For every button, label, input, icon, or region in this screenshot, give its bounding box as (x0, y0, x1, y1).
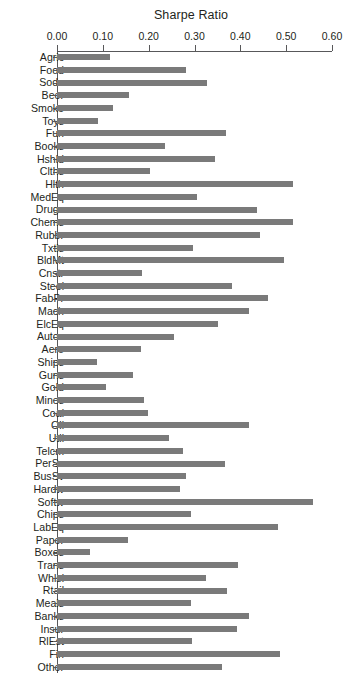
bar-row: Txtls (0, 242, 352, 255)
bar-row: Ships (0, 356, 352, 369)
bar (57, 664, 222, 670)
bar (57, 181, 293, 187)
bar (57, 168, 150, 174)
bar (57, 651, 280, 657)
bar-row: BusSv (0, 470, 352, 483)
bar-row: Hardw (0, 483, 352, 496)
bar (57, 473, 186, 479)
bar (57, 67, 186, 73)
bar (57, 257, 284, 263)
bar-row: Other (0, 661, 352, 674)
bar (57, 422, 249, 428)
bar-row: PerSv (0, 457, 352, 470)
bar-row: Insur (0, 623, 352, 636)
bar-row: Mach (0, 305, 352, 318)
bar-row: Agric (0, 51, 352, 64)
bar (57, 346, 141, 352)
bar-row: Cnstr (0, 267, 352, 280)
bar-row: Gold (0, 381, 352, 394)
bar (57, 600, 191, 606)
bar (57, 156, 215, 162)
chart-title: Sharpe Ratio (0, 8, 352, 22)
x-axis-tick-label: 0.30 (184, 30, 204, 42)
bar (57, 219, 293, 225)
bar-row: LabEq (0, 521, 352, 534)
bar (57, 549, 90, 555)
bar-row: Oil (0, 419, 352, 432)
bar (57, 384, 106, 390)
bar (57, 575, 206, 581)
chart-title-text: Sharpe Ratio (154, 8, 228, 22)
bar (57, 410, 148, 416)
bar (57, 524, 278, 530)
bar-row: Guns (0, 369, 352, 382)
bar-row: ElcEq (0, 318, 352, 331)
bar (57, 334, 174, 340)
bar (57, 499, 313, 505)
bar-row: Smoke (0, 102, 352, 115)
x-axis-tick-label: 0.60 (322, 30, 342, 42)
bar (57, 486, 180, 492)
bar-row: Trans (0, 559, 352, 572)
bar (57, 562, 238, 568)
bar (57, 245, 193, 251)
bar-row: Clths (0, 165, 352, 178)
bar (57, 308, 249, 314)
bar-row: BldMt (0, 254, 352, 267)
bar (57, 194, 197, 200)
bar (57, 461, 225, 467)
bar (57, 143, 165, 149)
bar (57, 283, 232, 289)
bar (57, 118, 98, 124)
bar-row: Food (0, 64, 352, 77)
bar (57, 130, 226, 136)
bar (57, 295, 268, 301)
bar-row: Fin (0, 648, 352, 661)
bar-row: Chems (0, 216, 352, 229)
bar-row: Toys (0, 115, 352, 128)
bar-row: Util (0, 432, 352, 445)
bar (57, 372, 133, 378)
bar (57, 321, 218, 327)
x-axis-tick-label: 0.20 (138, 30, 158, 42)
bar-row: Banks (0, 610, 352, 623)
x-axis-tick-label: 0.50 (276, 30, 296, 42)
bar (57, 638, 192, 644)
bar (57, 80, 207, 86)
bar (57, 435, 169, 441)
sharpe-ratio-bar-chart: Sharpe Ratio 0.000.100.200.300.400.500.6… (0, 0, 352, 677)
bar-row: Rubbr (0, 229, 352, 242)
bar (57, 270, 142, 276)
bar (57, 92, 129, 98)
bar (57, 397, 144, 403)
bar-row: Hshld (0, 153, 352, 166)
bar-row: Whlsl (0, 572, 352, 585)
bar-row: Meals (0, 597, 352, 610)
bar (57, 207, 257, 213)
bar (57, 588, 227, 594)
bar-row: FabPr (0, 292, 352, 305)
x-axis-tick-label: 0.40 (230, 30, 250, 42)
bar-row: Coal (0, 407, 352, 420)
bar-row: Mines (0, 394, 352, 407)
bar (57, 626, 237, 632)
plot-area: AgricFoodSodaBeerSmokeToysFunBooksHshldC… (0, 51, 352, 671)
bar-row: Steel (0, 280, 352, 293)
bar-row: Paper (0, 534, 352, 547)
bar-row: Boxes (0, 546, 352, 559)
bar (57, 232, 260, 238)
bar-row: Hlth (0, 178, 352, 191)
bar-row: RlEst (0, 635, 352, 648)
bar (57, 448, 183, 454)
bar (57, 54, 110, 60)
x-axis-tick-label: 0.10 (93, 30, 113, 42)
bar-row: Autos (0, 330, 352, 343)
bar (57, 359, 97, 365)
bar (57, 511, 191, 517)
bar-row: Drugs (0, 203, 352, 216)
bar-row: Chips (0, 508, 352, 521)
bar-row: Aero (0, 343, 352, 356)
x-axis-tick-label: 0.00 (47, 30, 67, 42)
bar-row: Softw (0, 496, 352, 509)
bar (57, 537, 128, 543)
